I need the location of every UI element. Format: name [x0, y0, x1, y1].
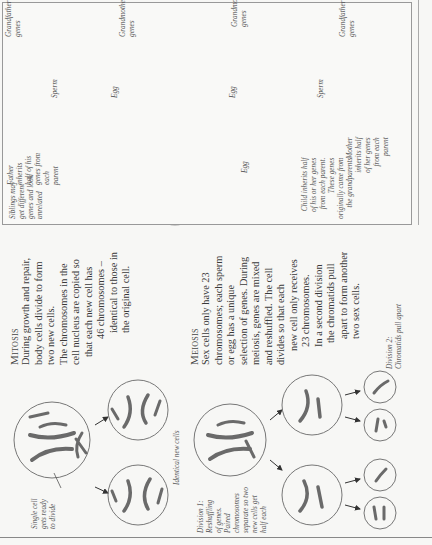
- caption-division-1: Division 1: Reshuffling of genes. Paired…: [196, 487, 268, 533]
- caption-single-cell: Single cell gets ready to divide: [30, 498, 57, 529]
- meiosis-section: Meiosis Sex cells only have 23 chromosom…: [188, 225, 363, 365]
- meiosis-body: Sex cells only have 23 chromosomes; each…: [200, 225, 363, 365]
- label-siblings: Siblings mayget differentgenes and looku…: [8, 175, 44, 219]
- label-grandfather-genes-2: Grandfather'sgenes: [338, 0, 356, 37]
- meiosis-division2-cells: [364, 371, 396, 529]
- label-egg-1: Egg: [110, 86, 119, 98]
- label-grandfather-genes-1: Grandfather'sgenes: [4, 0, 22, 37]
- label-grandmother-genes-2: Grandmother'sgenes: [230, 0, 248, 27]
- meiosis-division1-cell-2: [282, 465, 342, 525]
- label-grandmother-genes-1: Grandmother'sgenes: [118, 0, 136, 37]
- label-sperm-2: Sperm: [316, 79, 325, 98]
- label-egg-2: Egg: [228, 86, 237, 98]
- caption-identical-new-cells: Identical new cells: [172, 430, 181, 485]
- meiosis-parent-cell: [194, 404, 266, 476]
- mitosis-daughter-cell-2: [108, 465, 168, 525]
- meiosis-title: Meiosis: [188, 225, 200, 365]
- mitosis-parent-cell: [14, 402, 90, 478]
- single-cell-leader: [54, 473, 61, 488]
- caption-division-2: Division 2: Chromatids pull apart: [385, 304, 403, 369]
- mitosis-section: Mitosis During growth and repair, body c…: [8, 230, 133, 365]
- mitosis-body: During growth and repair, body cells div…: [20, 230, 133, 365]
- label-sperm-1: Sperm: [50, 79, 59, 98]
- page-right-edge: [418, 0, 419, 225]
- textbook-page: Single cell gets ready to divide Identic…: [0, 0, 432, 545]
- mitosis-title: Mitosis: [8, 230, 20, 365]
- label-egg-3: Egg: [240, 161, 249, 173]
- label-child-inherits-text: Child inherits halfof his or her genesfr…: [300, 158, 354, 219]
- meiosis-division1-cell-1: [282, 375, 342, 435]
- mitosis-daughter-cell-1: [108, 380, 168, 440]
